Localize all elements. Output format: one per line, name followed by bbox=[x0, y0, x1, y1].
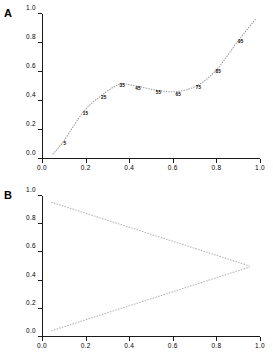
panel-a-curve bbox=[42, 14, 260, 159]
panel-a-x-tick-label: 0.2 bbox=[81, 164, 91, 171]
panel-b-x-tick-label: 0.8 bbox=[211, 342, 221, 349]
panel-b-x-tick-label: 0.6 bbox=[168, 342, 178, 349]
panel-a-x-tick bbox=[42, 159, 43, 163]
panel-a-y-tick-label: 0.2 bbox=[26, 120, 36, 127]
panel-a-x-tick-label: 1.0 bbox=[255, 164, 265, 171]
panel-b-y-tick-label: 0.6 bbox=[26, 242, 36, 249]
panel-b-lines bbox=[42, 196, 260, 337]
data-point-label: 85 bbox=[215, 68, 221, 73]
panel-a-x-tick bbox=[216, 159, 217, 163]
panel-b-x-tick bbox=[173, 337, 174, 341]
panel-b-y-tick-label: 1.0 bbox=[26, 186, 36, 193]
data-point-label: 95 bbox=[238, 39, 244, 44]
panel-a-y-tick bbox=[38, 100, 42, 101]
panel-a-x-tick bbox=[260, 159, 261, 163]
panel-b-y-tick bbox=[38, 280, 42, 281]
panel-a-y-tick bbox=[38, 42, 42, 43]
panel-a-x-tick bbox=[86, 159, 87, 163]
data-point-label: 45 bbox=[135, 85, 141, 90]
panel-b-y-tick-label: 0.2 bbox=[26, 298, 36, 305]
panel-b: B 0.00.20.40.60.81.00.00.20.40.60.81.0 bbox=[0, 178, 273, 356]
figure-container: A 0.00.20.40.60.81.00.00.20.40.60.81.051… bbox=[0, 0, 273, 356]
panel-b-x-tick bbox=[42, 337, 43, 341]
data-point-label: 65 bbox=[175, 91, 181, 96]
panel-a-x-tick-label: 0.0 bbox=[37, 164, 47, 171]
panel-b-lower-bound bbox=[52, 267, 249, 330]
panel-a: A 0.00.20.40.60.81.00.00.20.40.60.81.051… bbox=[0, 0, 273, 178]
panel-b-y-tick bbox=[38, 251, 42, 252]
panel-a-x-tick-label: 0.6 bbox=[168, 164, 178, 171]
panel-a-x-tick-label: 0.4 bbox=[124, 164, 134, 171]
data-point-label: 75 bbox=[196, 84, 202, 89]
panel-b-y-tick-label: 0.4 bbox=[26, 270, 36, 277]
panel-a-x-tick bbox=[173, 159, 174, 163]
panel-b-x-tick bbox=[260, 337, 261, 341]
panel-a-y-tick bbox=[38, 71, 42, 72]
panel-a-y-tick bbox=[38, 13, 42, 14]
panel-a-x-tick bbox=[129, 159, 130, 163]
panel-b-x-tick-label: 0.4 bbox=[124, 342, 134, 349]
data-point-label: 55 bbox=[156, 90, 162, 95]
panel-b-x-tick bbox=[216, 337, 217, 341]
panel-a-x-tick-label: 0.8 bbox=[211, 164, 221, 171]
data-point-label: 15 bbox=[83, 110, 89, 115]
data-point-label: 5 bbox=[63, 140, 66, 145]
data-point-label: 25 bbox=[101, 94, 107, 99]
panel-b-plot-area: 0.00.20.40.60.81.00.00.20.40.60.81.0 bbox=[42, 196, 260, 337]
panel-b-upper-bound bbox=[52, 202, 249, 265]
panel-b-x-tick-label: 0.2 bbox=[81, 342, 91, 349]
panel-b-x-tick bbox=[86, 337, 87, 341]
panel-a-y-tick-label: 0.6 bbox=[26, 62, 36, 69]
panel-a-label: A bbox=[4, 8, 12, 19]
panel-a-y-tick-label: 0.4 bbox=[26, 91, 36, 98]
panel-b-y-tick-label: 0.8 bbox=[26, 214, 36, 221]
panel-b-y-tick bbox=[38, 223, 42, 224]
panel-a-y-tick bbox=[38, 129, 42, 130]
panel-b-y-tick-label: 0.0 bbox=[26, 327, 36, 334]
panel-a-y-tick-label: 1.0 bbox=[26, 4, 36, 11]
panel-b-x-tick-label: 0.0 bbox=[37, 342, 47, 349]
panel-b-y-tick bbox=[38, 308, 42, 309]
panel-b-label: B bbox=[4, 190, 12, 201]
panel-a-plot-area: 0.00.20.40.60.81.00.00.20.40.60.81.05152… bbox=[42, 14, 260, 159]
panel-a-y-tick-label: 0.0 bbox=[26, 149, 36, 156]
panel-b-x-tick-label: 1.0 bbox=[255, 342, 265, 349]
panel-a-y-tick-label: 0.8 bbox=[26, 33, 36, 40]
data-point-label: 35 bbox=[119, 83, 125, 88]
panel-b-x-tick bbox=[129, 337, 130, 341]
panel-b-y-tick bbox=[38, 195, 42, 196]
